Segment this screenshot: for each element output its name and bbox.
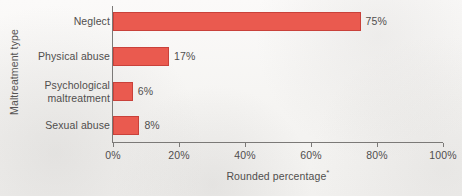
x-tick-label-60pct: 60% [300, 149, 321, 161]
category-label-psychological-maltreatment: Psychological maltreatment [18, 79, 110, 104]
category-label-group: Neglect Physical abuse Psychological mal… [18, 0, 110, 145]
x-tick-40pct [245, 143, 246, 147]
x-axis-title-text: Rounded percentage [226, 170, 326, 182]
x-tick-80pct [377, 143, 378, 147]
x-tick-100pct [443, 143, 444, 147]
x-tick-label-100pct: 100% [429, 149, 456, 161]
bar-neglect[interactable] [113, 12, 361, 31]
bar-physical-abuse[interactable] [113, 47, 169, 66]
bar-chart: Maltreatment type Neglect Physical abuse… [0, 0, 462, 196]
plot-area: 75% 17% 6% 8% 0%20%40%60%80%100% [113, 6, 443, 143]
bar-psychological-maltreatment[interactable] [113, 82, 133, 101]
x-tick-label-0pct: 0% [105, 149, 120, 161]
category-label-line-2: maltreatment [48, 92, 110, 104]
category-label-line-1: Psychological [45, 79, 111, 91]
x-tick-label-80pct: 80% [366, 149, 387, 161]
x-tick-label-40pct: 40% [234, 149, 255, 161]
bar-value-psychological-maltreatment: 6% [138, 85, 153, 97]
bar-value-physical-abuse: 17% [174, 50, 195, 62]
x-axis-footnote-marker: * [326, 168, 329, 177]
category-label-neglect: Neglect [18, 15, 110, 28]
x-tick-60pct [311, 143, 312, 147]
category-label-sexual-abuse: Sexual abuse [18, 119, 110, 132]
bar-sexual-abuse[interactable] [113, 116, 139, 135]
x-axis-title: Rounded percentage* [113, 168, 443, 182]
category-label-physical-abuse: Physical abuse [18, 50, 110, 63]
x-axis-line [112, 142, 443, 143]
x-tick-20pct [179, 143, 180, 147]
bar-value-neglect: 75% [366, 15, 387, 27]
x-tick-0pct [113, 143, 114, 147]
x-tick-label-20pct: 20% [168, 149, 189, 161]
bar-value-sexual-abuse: 8% [144, 119, 159, 131]
